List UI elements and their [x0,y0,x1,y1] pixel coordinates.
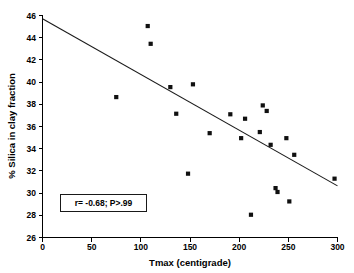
x-tick-marks [43,238,338,242]
data-point [191,82,195,86]
data-points-layer [114,24,337,217]
x-tick-label: 200 [232,242,246,252]
y-tick-label: 26 [27,233,37,243]
y-tick-label: 30 [27,188,37,198]
x-axis-title: Tmax (centigrade) [149,257,231,268]
data-point [114,95,118,99]
data-point [332,177,336,181]
y-tick-label: 32 [27,166,37,176]
y-tick-labels: 46 44 42 40 38 36 34 32 30 28 26 [27,11,37,243]
x-tick-labels: 0 50 100 150 200 250 300 [40,242,345,252]
data-point [258,130,262,134]
statistics-annotation: r= -0.68; P>.99 [61,195,147,212]
data-point [265,109,269,113]
annotation-label: r= -0.68; P>.99 [75,198,133,208]
data-point [239,136,243,140]
x-tick-label: 100 [134,242,148,252]
y-tick-label: 42 [27,55,37,65]
data-point [208,131,212,135]
x-tick-label: 250 [281,242,295,252]
data-point [261,103,265,107]
regression-fit-line [43,19,338,186]
data-point [146,24,150,28]
y-axis-title: % Silica in clay fraction [6,73,17,179]
x-tick-label: 0 [40,242,45,252]
y-tick-label: 40 [27,77,37,87]
data-point [284,136,288,140]
x-tick-label: 300 [330,242,344,252]
data-point [186,172,190,176]
data-point [269,143,273,147]
y-tick-label: 28 [27,210,37,220]
data-point [168,85,172,89]
y-tick-label: 36 [27,122,37,132]
y-tick-marks [39,16,43,238]
data-point [243,117,247,121]
data-point [292,153,296,157]
data-point [249,213,253,217]
data-point [275,190,279,194]
y-tick-label: 38 [27,99,37,109]
scatter-plot-figure: 46 44 42 40 38 36 34 32 30 28 26 0 50 10… [0,0,354,273]
data-point [228,112,232,116]
data-point [174,112,178,116]
x-tick-label: 50 [87,242,97,252]
data-point [273,186,277,190]
plot-canvas: 46 44 42 40 38 36 34 32 30 28 26 0 50 10… [0,0,354,273]
y-tick-label: 34 [27,144,37,154]
data-point [287,199,291,203]
y-tick-label: 44 [27,33,37,43]
x-tick-label: 150 [183,242,197,252]
data-point [149,42,153,46]
y-tick-label: 46 [27,11,37,21]
